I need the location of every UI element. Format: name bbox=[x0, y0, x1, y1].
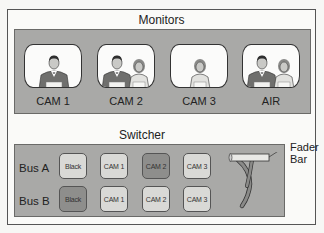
fader-label-line2: Bar bbox=[290, 153, 319, 165]
bus-a-black-button[interactable]: Black bbox=[59, 153, 87, 179]
program-output-icon bbox=[243, 45, 300, 88]
monitor-cam1 bbox=[24, 44, 82, 88]
bus-b-black-button[interactable]: Black bbox=[59, 186, 87, 212]
monitor-label: CAM 2 bbox=[91, 95, 161, 107]
monitor-air bbox=[242, 44, 300, 88]
bus-a-label: Bus A bbox=[19, 162, 49, 174]
switcher-title: Switcher bbox=[112, 128, 172, 142]
fader-bar-icon bbox=[226, 152, 280, 212]
bus-b-cam1-button[interactable]: CAM 1 bbox=[100, 186, 128, 212]
bus-a-cam3-button[interactable]: CAM 3 bbox=[183, 153, 211, 179]
news-anchor-woman-icon bbox=[171, 45, 228, 88]
monitors-title: Monitors bbox=[7, 13, 316, 27]
fader-label-line1: Fader bbox=[290, 141, 319, 153]
monitor-label: AIR bbox=[236, 95, 306, 107]
anchors-two-shot-icon bbox=[98, 45, 155, 88]
bus-b-cam3-button[interactable]: CAM 3 bbox=[183, 186, 211, 212]
bus-b-cam2-button[interactable]: CAM 2 bbox=[142, 186, 170, 212]
fader-bar-label: Fader Bar bbox=[290, 141, 319, 165]
bus-a-cam1-button[interactable]: CAM 1 bbox=[100, 153, 128, 179]
monitor-label: CAM 3 bbox=[164, 95, 234, 107]
bus-a-cam2-button[interactable]: CAM 2 bbox=[142, 153, 170, 179]
monitor-label: CAM 1 bbox=[18, 95, 88, 107]
news-anchor-man-icon bbox=[25, 45, 82, 88]
bus-b-label: Bus B bbox=[19, 195, 50, 207]
fader-bar[interactable] bbox=[226, 152, 280, 212]
monitor-cam3 bbox=[170, 44, 228, 88]
monitor-cam2 bbox=[97, 44, 155, 88]
